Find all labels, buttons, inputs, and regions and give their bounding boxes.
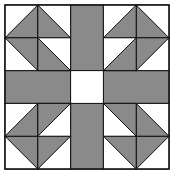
quilt-block <box>0 0 173 177</box>
center-square <box>71 71 104 104</box>
horizontal-band-left <box>5 71 71 104</box>
vertical-band-bottom <box>71 103 104 169</box>
horizontal-band-right <box>103 71 169 104</box>
vertical-band-top <box>71 5 104 71</box>
